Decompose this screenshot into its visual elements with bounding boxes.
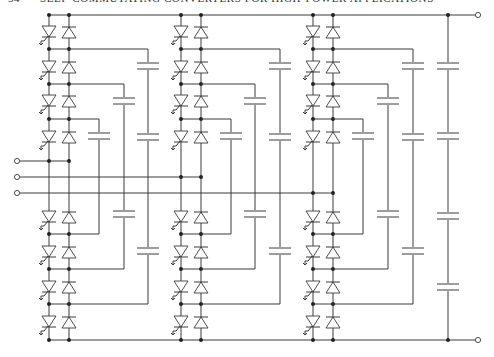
junction-dot xyxy=(179,117,183,121)
diode-triangle xyxy=(194,27,208,38)
junction-dot xyxy=(47,338,51,342)
junction-dot xyxy=(311,47,315,51)
junction-dot xyxy=(179,267,183,271)
junction-dot xyxy=(446,338,450,342)
diode-triangle xyxy=(326,27,340,38)
diode-triangle xyxy=(62,96,76,107)
ac-input-phase-c xyxy=(14,190,335,195)
junction-dot xyxy=(47,302,51,306)
junction-dot xyxy=(446,13,450,17)
junction-dot xyxy=(67,338,71,342)
thyristor-triangle xyxy=(42,26,56,37)
thyristor-triangle xyxy=(174,61,188,72)
diode-triangle xyxy=(326,62,340,73)
diode-triangle xyxy=(194,132,208,143)
junction-dot xyxy=(199,338,203,342)
thyristor-triangle xyxy=(306,131,320,142)
thyristor-triangle xyxy=(306,26,320,37)
diode-triangle xyxy=(194,282,208,293)
thyristor-triangle xyxy=(174,131,188,142)
diode-triangle xyxy=(194,317,208,328)
junction-dot xyxy=(179,175,183,179)
thyristor-triangle xyxy=(42,246,56,257)
junction-dot xyxy=(199,175,203,179)
junction-dot xyxy=(179,302,183,306)
diode-triangle xyxy=(326,212,340,223)
diode-triangle xyxy=(62,212,76,223)
junction-dot xyxy=(311,191,315,195)
junction-dot xyxy=(311,82,315,86)
diode-triangle xyxy=(194,62,208,73)
diode-triangle xyxy=(326,96,340,107)
junction-dot xyxy=(67,159,71,163)
thyristor-triangle xyxy=(42,95,56,106)
diode-triangle xyxy=(326,317,340,328)
diode-triangle xyxy=(194,247,208,258)
junction-dot xyxy=(179,232,183,236)
thyristor-triangle xyxy=(306,281,320,292)
diode-triangle xyxy=(62,282,76,293)
diode-triangle xyxy=(62,317,76,328)
ac-terminal xyxy=(14,190,19,195)
ac-terminal xyxy=(14,158,19,163)
thyristor-triangle xyxy=(42,316,56,327)
diode-triangle xyxy=(194,96,208,107)
ac-terminal xyxy=(14,174,19,179)
ac-input-phase-a xyxy=(14,158,71,163)
thyristor-triangle xyxy=(306,61,320,72)
thyristor-triangle xyxy=(42,281,56,292)
thyristor-triangle xyxy=(306,246,320,257)
diode-triangle xyxy=(326,282,340,293)
diode-triangle xyxy=(194,212,208,223)
thyristor-triangle xyxy=(42,131,56,142)
circuit-diagram xyxy=(0,0,494,357)
junction-dot xyxy=(199,13,203,17)
dc-negative-terminal xyxy=(475,337,480,342)
ac-input-phase-b xyxy=(14,174,203,179)
dc-bus-capacitor-string xyxy=(437,15,459,340)
diode-triangle xyxy=(62,27,76,38)
junction-dot xyxy=(47,47,51,51)
junction-dot xyxy=(311,13,315,17)
junction-dot xyxy=(179,47,183,51)
junction-dot xyxy=(311,267,315,271)
diode-triangle xyxy=(326,132,340,143)
junction-dot xyxy=(179,13,183,17)
diode-triangle xyxy=(326,247,340,258)
thyristor-triangle xyxy=(306,211,320,222)
phase-leg-phase-c xyxy=(303,13,424,342)
thyristor-triangle xyxy=(174,246,188,257)
thyristor-triangle xyxy=(42,211,56,222)
thyristor-triangle xyxy=(174,281,188,292)
junction-dot xyxy=(331,338,335,342)
diode-triangle xyxy=(62,62,76,73)
junction-dot xyxy=(47,267,51,271)
junction-dot xyxy=(179,338,183,342)
junction-dot xyxy=(47,159,51,163)
dc-positive-terminal xyxy=(475,12,480,17)
thyristor-triangle xyxy=(174,26,188,37)
thyristor-triangle xyxy=(174,211,188,222)
junction-dot xyxy=(331,13,335,17)
junction-dot xyxy=(331,191,335,195)
junction-dot xyxy=(47,13,51,17)
thyristor-triangle xyxy=(306,95,320,106)
junction-dot xyxy=(179,82,183,86)
junction-dot xyxy=(67,13,71,17)
thyristor-triangle xyxy=(174,95,188,106)
thyristor-triangle xyxy=(306,316,320,327)
diode-triangle xyxy=(62,132,76,143)
junction-dot xyxy=(47,82,51,86)
junction-dot xyxy=(47,117,51,121)
junction-dot xyxy=(311,117,315,121)
junction-dot xyxy=(311,232,315,236)
junction-dot xyxy=(311,338,315,342)
diode-triangle xyxy=(62,247,76,258)
thyristor-triangle xyxy=(174,316,188,327)
junction-dot xyxy=(47,232,51,236)
junction-dot xyxy=(311,302,315,306)
thyristor-triangle xyxy=(42,61,56,72)
